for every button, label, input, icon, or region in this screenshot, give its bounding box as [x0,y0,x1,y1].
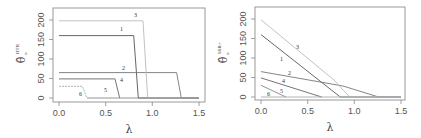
left-y-axis [49,20,53,98]
left-label-3: 3 [134,12,137,18]
right-label-3: 3 [296,44,299,50]
left-panel: 0 50 100 150 200 0.0 0.5 1.0 1.5 λ θ̂ n … [15,8,205,136]
left-xtick-0: 0.0 [53,108,66,118]
left-y-axis-title: θ̂ n HTR [15,43,28,63]
right-label-2: 2 [288,70,291,76]
left-label-5: 5 [104,87,107,93]
right-ytick-100: 100 [238,50,248,65]
svg-text:θ̂: θ̂ [15,56,28,63]
right-ytick-0: 0 [238,94,248,99]
right-y-axis-title: θ̂ n SSR+ [217,42,230,63]
svg-text:SSR+: SSR+ [217,42,222,54]
right-xtick-1.5: 1.5 [395,106,408,116]
right-label-1: 1 [280,56,283,62]
left-x-axis [59,102,199,106]
left-label-2: 2 [122,65,125,71]
svg-text:n: n [23,52,28,55]
left-ytick-100: 100 [36,51,46,66]
left-x-axis-title: λ [126,123,133,136]
left-xtick-1.5: 1.5 [193,108,206,118]
right-label-4: 4 [282,78,285,84]
left-xtick-0.5: 0.5 [99,108,112,118]
right-panel: 0 50 100 150 200 0.0 0.5 1.0 1.5 λ θ̂ n … [217,7,407,134]
left-plot-frame [53,8,205,102]
right-xtick-1: 1.0 [348,106,361,116]
right-y-axis [251,19,255,97]
left-ytick-50: 50 [36,73,46,83]
right-label-6: 6 [267,91,270,97]
svg-text:θ̂: θ̂ [217,56,230,63]
left-ytick-150: 150 [36,32,46,47]
right-plot-frame [255,7,405,100]
right-ytick-200: 200 [238,11,248,26]
left-label-1: 1 [120,26,123,32]
left-label-4: 4 [120,77,123,83]
left-line-4 [59,79,120,98]
left-label-6: 6 [79,91,82,97]
left-line-6 [59,86,87,98]
right-xtick-0.5: 0.5 [301,106,314,116]
right-label-5: 5 [280,88,283,94]
svg-text:HTR: HTR [15,43,20,54]
chart-canvas: 0 50 100 150 200 0.0 0.5 1.0 1.5 λ θ̂ n … [0,0,421,138]
right-ytick-150: 150 [238,31,248,46]
svg-text:n: n [225,52,230,55]
left-line-1 [59,36,199,98]
right-x-axis [261,100,401,104]
right-x-axis-title: λ [327,121,334,134]
left-ytick-200: 200 [36,12,46,27]
left-ytick-0: 0 [36,95,46,100]
right-xtick-0: 0.0 [255,106,268,116]
right-ytick-50: 50 [238,72,248,82]
left-xtick-1: 1.0 [146,108,159,118]
